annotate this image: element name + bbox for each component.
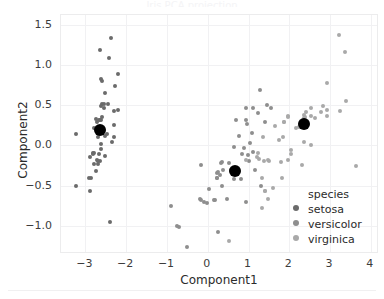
- x-tick-label-6: 3: [326, 257, 333, 270]
- legend-marker-icon-setosa: [293, 205, 299, 211]
- y-axis-label: Component2: [16, 70, 30, 210]
- legend-item-virginica[interactable]: virginica: [288, 230, 380, 245]
- legend-marker-icon-virginica: [293, 235, 299, 241]
- figure: Iris PCA projection 1.51.00.50.0−0.5−1.0…: [0, 0, 384, 299]
- legend-marker-icon-versicolor: [293, 220, 299, 226]
- legend-item-versicolor[interactable]: versicolor: [288, 215, 380, 230]
- x-tick-label-1: −2: [117, 257, 133, 270]
- y-tick-label-5: −1.0: [0, 218, 52, 231]
- legend-entries: setosaversicolorvirginica: [288, 200, 380, 245]
- y-tick-label-0: 1.5: [0, 17, 52, 30]
- legend: species setosaversicolorvirginica: [288, 185, 380, 245]
- x-tick-label-4: 1: [244, 257, 251, 270]
- legend-item-setosa[interactable]: setosa: [288, 200, 380, 215]
- x-tick-label-3: 0: [203, 257, 210, 270]
- x-tick-label-5: 2: [285, 257, 292, 270]
- y-tick-label-1: 1.0: [0, 57, 52, 70]
- bottom-rule: [8, 290, 376, 291]
- legend-title-row: species: [288, 185, 380, 200]
- y-axis-ticks: 1.51.00.50.0−0.5−1.0: [0, 0, 384, 299]
- x-tick-label-0: −3: [76, 257, 92, 270]
- x-tick-label-7: 4: [366, 257, 373, 270]
- x-tick-label-2: −1: [158, 257, 174, 270]
- x-axis-label: Component1: [60, 273, 378, 287]
